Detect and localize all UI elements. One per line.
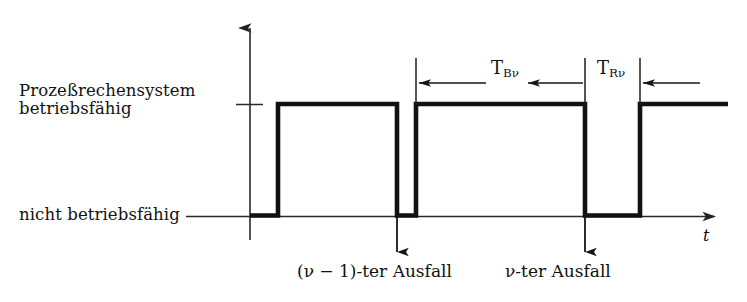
timing-diagram-figure: Prozeßrechensystem betriebsfähig nicht b… — [0, 0, 747, 302]
dimension-label-t-b-nu-base: T — [491, 57, 503, 78]
event-label-failure-nu-minus-1: (ν − 1)-ter Ausfall — [297, 262, 452, 281]
dimension-label-t-r-nu: TRν — [597, 58, 625, 81]
y-label-not-operational: nicht betriebsfähig — [19, 206, 180, 224]
dimension-label-t-r-nu-sub: Rν — [609, 66, 625, 80]
y-label-operational: Prozeßrechensystem betriebsfähig — [19, 82, 195, 119]
y-label-operational-line2: betriebsfähig — [19, 100, 195, 118]
dimension-label-t-r-nu-base: T — [597, 57, 609, 78]
event-label-failure-nu: ν-ter Ausfall — [505, 262, 611, 281]
x-axis-label: t — [703, 227, 709, 245]
dimension-label-t-b-nu: TBν — [491, 58, 519, 81]
diagram-canvas — [0, 0, 747, 302]
dimension-label-t-b-nu-sub: Bν — [503, 66, 519, 80]
y-label-not-operational-line1: nicht betriebsfähig — [19, 206, 180, 224]
signal-waveform — [250, 104, 728, 216]
y-label-operational-line1: Prozeßrechensystem — [19, 82, 195, 100]
